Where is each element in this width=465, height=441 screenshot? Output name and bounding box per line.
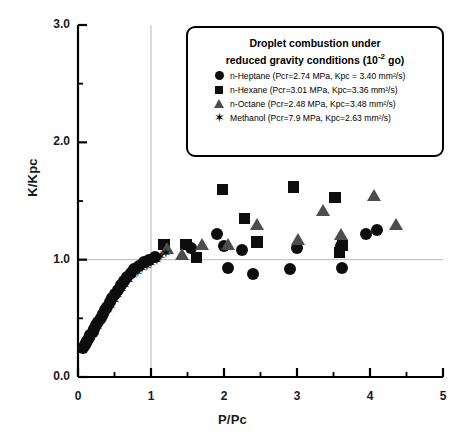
data-point-square	[191, 252, 203, 264]
chart-figure: ✶✶✶✶✶✶✶✶✶✶✶✶✶✶✶✶✶✶✶✶✶✶ K/Kpc P/Pc 012345…	[0, 0, 465, 441]
y-axis-title: K/Kpc	[25, 138, 40, 218]
chart-legend: Droplet combustion under reduced gravity…	[186, 26, 444, 157]
y-tick-label: 1.0	[38, 252, 70, 266]
y-tick-label: 0.0	[38, 369, 70, 383]
legend-item-n-heptane: n-Heptane (Pcr=2.74 MPa, Kpc = 3.40 mm²/…	[188, 71, 442, 81]
legend-label: n-Octane (Pcr=2.48 MPa, Kpc=3.48 mm²/s)	[230, 99, 396, 109]
x-axis-title: P/Pc	[218, 412, 247, 427]
square-icon	[215, 86, 223, 94]
data-point-square	[217, 184, 229, 196]
legend-marker-triangle-icon	[208, 99, 230, 108]
data-point-triangle	[195, 238, 209, 250]
data-point-triangle	[334, 228, 348, 240]
legend-label: n-Heptane (Pcr=2.74 MPa, Kpc = 3.40 mm²/…	[230, 71, 405, 81]
legend-title-line2-pre: reduced gravity conditions (10	[226, 54, 378, 66]
legend-title-line2-post: go)	[385, 54, 404, 66]
legend-title-exponent: -2	[378, 52, 385, 61]
data-point-triangle	[389, 218, 403, 230]
legend-marker-circle-icon	[208, 71, 230, 80]
legend-item-n-hexane: n-Hexane (Pcr=3.01 MPa, Kpc=3.36 mm²/s)	[188, 85, 442, 95]
x-tick-label: 5	[431, 389, 455, 403]
legend-entries: n-Heptane (Pcr=2.74 MPa, Kpc = 3.40 mm²/…	[188, 71, 442, 123]
data-point-circle	[222, 262, 234, 274]
x-tick-label: 4	[358, 389, 382, 403]
data-point-square	[334, 247, 346, 259]
legend-label: n-Hexane (Pcr=3.01 MPa, Kpc=3.36 mm²/s)	[230, 85, 398, 95]
y-tick-label: 3.0	[38, 17, 70, 31]
data-point-triangle	[175, 248, 189, 260]
data-point-triangle	[250, 218, 264, 230]
legend-label: Methanol (Pcr=7.9 MPa, Kpc=2.63 mm²/s)	[230, 113, 391, 123]
x-tick-label: 0	[66, 389, 90, 403]
x-tick-label: 2	[212, 389, 236, 403]
data-point-triangle	[367, 189, 381, 201]
legend-title-line1: Droplet combustion under	[249, 37, 380, 49]
data-point-square	[251, 236, 263, 248]
x-tick-label: 3	[285, 389, 309, 403]
data-point-circle	[247, 268, 259, 280]
data-point-square	[288, 181, 300, 193]
data-point-triangle	[316, 204, 330, 216]
legend-marker-square-icon	[208, 86, 230, 94]
triangle-icon	[214, 99, 224, 108]
star-icon: ✶	[214, 113, 225, 122]
data-point-square	[329, 192, 341, 204]
data-point-circle	[284, 263, 296, 275]
data-point-triangle	[291, 233, 305, 245]
legend-item-methanol: ✶Methanol (Pcr=7.9 MPa, Kpc=2.63 mm²/s)	[188, 113, 442, 123]
legend-marker-star-icon: ✶	[208, 113, 230, 122]
circle-icon	[215, 71, 224, 80]
legend-title: Droplet combustion under reduced gravity…	[188, 37, 442, 67]
legend-item-n-octane: n-Octane (Pcr=2.48 MPa, Kpc=3.48 mm²/s)	[188, 99, 442, 109]
data-point-triangle	[221, 238, 235, 250]
x-tick-label: 1	[139, 389, 163, 403]
data-point-square	[239, 213, 251, 225]
y-tick-label: 2.0	[38, 134, 70, 148]
